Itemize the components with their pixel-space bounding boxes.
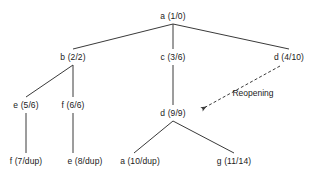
node-f7: f (7/dup) <box>10 157 43 166</box>
node-a10: a (10/dup) <box>120 157 160 166</box>
node-e8: e (8/dup) <box>68 157 103 166</box>
edge-a1-b2 <box>73 24 173 49</box>
node-d9: d (9/9) <box>160 109 185 118</box>
node-g11: g (11/14) <box>217 157 251 166</box>
node-e5: e (5/6) <box>13 101 38 110</box>
dfs-tree-diagram: a (1/0) b (2/2) c (3/6) d (4/10) e (5/6)… <box>0 0 325 179</box>
annotation-reopening: Reopening <box>232 89 273 98</box>
edge-d9-g11 <box>173 121 234 153</box>
node-a1: a (1/0) <box>160 12 185 21</box>
node-c3: c (3/6) <box>161 53 186 62</box>
node-f6: f (6/6) <box>62 101 85 110</box>
edge-layer <box>0 0 325 179</box>
node-d4: d (4/10) <box>274 53 304 62</box>
edge-d9-a10 <box>134 121 173 153</box>
node-b2: b (2/2) <box>60 53 85 62</box>
edge-a1-d4 <box>173 24 289 49</box>
edge-b2-e5 <box>26 65 73 97</box>
